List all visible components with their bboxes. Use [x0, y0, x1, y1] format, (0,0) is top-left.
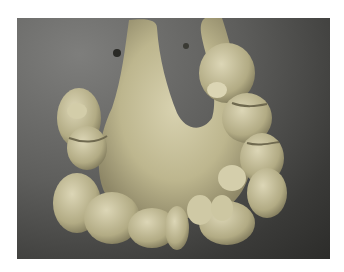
- specimen-photo: [17, 18, 330, 259]
- specimen-illustration: [17, 18, 330, 259]
